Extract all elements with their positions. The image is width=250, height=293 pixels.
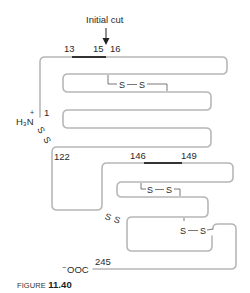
- n-terminus-label: H₃N: [16, 116, 34, 127]
- svg-text:S: S: [200, 226, 206, 236]
- svg-text:S: S: [103, 211, 112, 222]
- residue-1-label: 1: [44, 107, 49, 118]
- disulfide-bond-lower: S S: [180, 218, 213, 236]
- residue-146-label: 146: [130, 150, 146, 161]
- residue-245-label: 245: [95, 256, 111, 267]
- figure-number: 11.40: [48, 279, 72, 290]
- polypeptide-chain-c-terminal: [93, 224, 236, 269]
- residue-149-label: 149: [181, 150, 197, 161]
- residue-122-label: 122: [54, 151, 70, 162]
- svg-text:S: S: [166, 185, 172, 195]
- svg-text:S: S: [41, 135, 53, 145]
- svg-text:S: S: [112, 214, 121, 225]
- c-terminus-label: OOC: [67, 264, 89, 275]
- svg-text:S: S: [35, 125, 47, 135]
- disulfide-bond-upper: S S: [108, 75, 167, 91]
- c-terminus-charge: −: [62, 264, 66, 271]
- residue-13-label: 13: [64, 43, 75, 54]
- residue-15-label: 15: [93, 43, 104, 54]
- svg-text:S: S: [147, 185, 153, 195]
- initial-cut-label: Initial cut: [86, 14, 124, 25]
- svg-text:S: S: [139, 80, 145, 90]
- n-terminus: H₃N +: [16, 109, 34, 127]
- disulfide-bond-1-122: S S: [35, 125, 53, 145]
- residue-16-label: 16: [110, 43, 121, 54]
- figure-caption: FIGURE 11.40: [17, 279, 72, 290]
- figure-caption-prefix: FIGURE: [17, 281, 46, 290]
- disulfide-bond-diagonal: S S: [103, 211, 121, 225]
- c-terminus: − OOC: [62, 264, 89, 275]
- n-terminus-charge: +: [30, 109, 34, 116]
- svg-text:S: S: [119, 80, 125, 90]
- protein-fold-diagram: Initial cut 13 15 16 1 122 146 149 245 H…: [0, 0, 250, 293]
- disulfide-bond-middle: S S: [141, 183, 180, 196]
- svg-text:S: S: [180, 226, 186, 236]
